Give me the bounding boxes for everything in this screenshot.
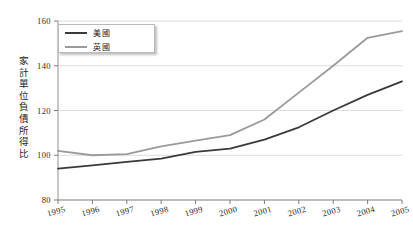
legend-swatch-icon — [65, 46, 87, 48]
svg-text:1998: 1998 — [149, 204, 170, 219]
svg-text:2002: 2002 — [287, 204, 308, 219]
svg-text:2000: 2000 — [218, 204, 239, 219]
svg-text:2001: 2001 — [252, 204, 273, 219]
svg-text:2003: 2003 — [321, 204, 342, 219]
svg-text:1999: 1999 — [183, 204, 204, 219]
legend-swatch-icon — [65, 32, 87, 34]
svg-text:2004: 2004 — [355, 204, 376, 219]
svg-text:2005: 2005 — [390, 204, 411, 219]
legend: 美國 英國 — [58, 24, 155, 53]
legend-item-1: 英國 — [59, 40, 154, 53]
line-chart: 家計單位負債所得比 80100120140160 199519961997199… — [0, 0, 413, 241]
legend-label: 美國 — [93, 27, 110, 38]
svg-text:160: 160 — [37, 16, 51, 26]
svg-text:1995: 1995 — [46, 204, 67, 219]
legend-item-0: 美國 — [59, 26, 154, 39]
svg-text:80: 80 — [42, 195, 51, 205]
svg-text:120: 120 — [37, 106, 51, 116]
svg-text:140: 140 — [37, 61, 51, 71]
legend-label: 英國 — [93, 41, 110, 52]
svg-text:1996: 1996 — [80, 204, 101, 219]
svg-text:1997: 1997 — [115, 204, 136, 219]
x-axis-tick-labels: 1995199619971998199920002001200220032004… — [46, 204, 411, 219]
x-axis-ticks — [58, 200, 402, 204]
y-axis-tick-labels: 80100120140160 — [37, 16, 51, 205]
svg-text:100: 100 — [37, 150, 51, 160]
